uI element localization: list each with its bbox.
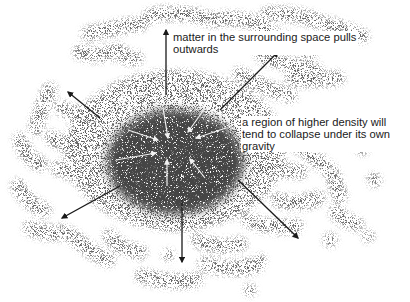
- outward-pull-label: matter in the surrounding space pulls ou…: [172, 31, 358, 55]
- dense-core: [107, 110, 243, 214]
- collapse-label: a region of higher density will tend to …: [241, 116, 392, 152]
- collapse-label-line2: tend to collapse under its own: [242, 128, 390, 140]
- collapse-label-line1: a region of higher density will: [242, 116, 390, 128]
- outward-pull-label-line1: matter in the surrounding space pulls: [173, 31, 356, 43]
- collapse-label-line3: gravity: [242, 140, 390, 152]
- outward-pull-label-line2: outwards: [173, 43, 356, 55]
